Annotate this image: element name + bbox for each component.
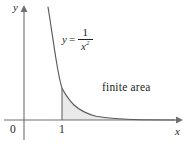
equation-equals-sign: = <box>69 34 75 45</box>
x-tick-label-1: 1 <box>59 124 65 136</box>
origin-label: 0 <box>10 124 16 136</box>
finite-area-figure: y x 0 1 finite area y = 1 x2 <box>0 0 188 152</box>
equation-denominator-exponent: 2 <box>86 39 90 47</box>
plot-canvas <box>0 0 188 152</box>
finite-area-caption: finite area <box>102 82 151 94</box>
y-axis-label: y <box>13 2 18 13</box>
equation-fraction: 1 x2 <box>78 27 92 52</box>
equation-lhs: y <box>62 34 67 45</box>
y-axis-arrowhead <box>21 5 28 12</box>
x-axis-arrowhead <box>176 117 183 124</box>
equation-denominator: x2 <box>78 40 92 52</box>
x-axis-label: x <box>175 126 180 137</box>
equation-label: y = 1 x2 <box>62 27 93 52</box>
equation-numerator: 1 <box>80 27 92 39</box>
